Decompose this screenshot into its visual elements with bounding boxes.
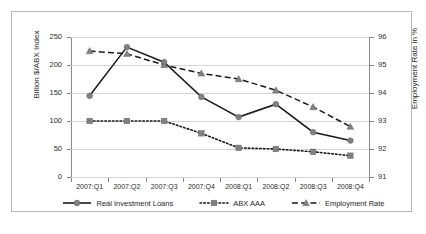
chart-frame: 250200150100500 969594939291 2007:Q12007… bbox=[11, 11, 412, 212]
legend-item: Real Investment Loans bbox=[62, 198, 173, 208]
series-line-circle bbox=[90, 47, 351, 141]
plot-series-layer bbox=[12, 12, 413, 213]
data-point-marker bbox=[236, 145, 242, 151]
dashed-line-triangle-marker-icon bbox=[291, 198, 321, 208]
data-point-marker bbox=[236, 114, 242, 120]
data-point-marker bbox=[347, 138, 353, 144]
data-point-marker bbox=[310, 149, 316, 155]
data-point-marker bbox=[87, 93, 93, 99]
data-point-marker bbox=[310, 129, 316, 135]
legend-marker bbox=[75, 200, 81, 206]
data-point-marker bbox=[124, 118, 130, 124]
series-line-triangle bbox=[90, 51, 351, 127]
legend-label: Employment Rate bbox=[325, 199, 385, 208]
data-point-marker bbox=[273, 146, 279, 152]
dotted-line-square-marker-icon bbox=[199, 198, 229, 208]
chart-figure: 250200150100500 969594939291 2007:Q12007… bbox=[0, 0, 426, 234]
chart-legend: Real Investment LoansABX AAAEmployment R… bbox=[23, 198, 424, 208]
solid-line-circle-marker-icon bbox=[62, 198, 92, 208]
legend-marker bbox=[211, 200, 217, 206]
legend-item: Employment Rate bbox=[291, 198, 385, 208]
data-point-marker bbox=[87, 118, 93, 124]
data-point-marker bbox=[273, 101, 279, 107]
data-point-marker bbox=[124, 44, 130, 50]
data-point-marker bbox=[348, 153, 354, 159]
data-point-marker bbox=[347, 123, 354, 129]
legend-label: Real Investment Loans bbox=[96, 199, 173, 208]
data-point-marker bbox=[310, 104, 317, 110]
data-point-marker bbox=[161, 118, 167, 124]
legend-label: ABX AAA bbox=[233, 199, 265, 208]
legend-item: ABX AAA bbox=[199, 198, 265, 208]
data-point-marker bbox=[198, 94, 204, 100]
data-point-marker bbox=[199, 131, 205, 137]
